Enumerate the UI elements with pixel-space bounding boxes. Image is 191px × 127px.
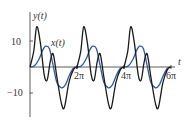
plot-area: 10 −10 2π 4π 6π t y(t) x(t) — [0, 0, 191, 127]
y-tick-neg10: −10 — [7, 87, 23, 98]
x-tick-6pi: 6π — [166, 70, 176, 81]
chart: 10 −10 2π 4π 6π t y(t) x(t) — [0, 0, 191, 127]
x-tick-2pi: 2π — [74, 70, 84, 81]
y-tick-10: 10 — [11, 36, 21, 47]
x-tick-4pi: 4π — [121, 70, 131, 81]
x-curve-label: x(t) — [50, 37, 66, 49]
x-axis-label: t — [178, 56, 181, 67]
y-curve-label: y(t) — [32, 10, 48, 22]
